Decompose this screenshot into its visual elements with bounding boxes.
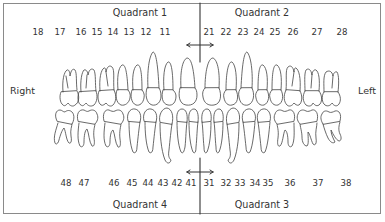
tooth-15 [116, 65, 130, 105]
tooth-22 [224, 62, 238, 105]
tooth-13 [146, 52, 161, 105]
tooth-42 [177, 109, 188, 153]
tooth-45 [127, 109, 140, 153]
tooth-25 [270, 65, 283, 105]
tooth-18 [60, 69, 79, 106]
tooth-14 [131, 65, 144, 105]
tooth-24 [256, 65, 269, 105]
tooth-32 [214, 109, 224, 153]
tooth-16 [98, 66, 116, 106]
tooth-12 [162, 62, 176, 105]
tooth-23 [239, 52, 254, 105]
teeth-illustration [0, 0, 385, 222]
tooth-27 [303, 69, 321, 106]
tooth-34 [242, 109, 255, 153]
tooth-37 [297, 110, 317, 146]
tooth-48 [54, 110, 74, 144]
tooth-33 [226, 108, 239, 163]
tooth-43 [159, 108, 172, 163]
tooth-21 [203, 58, 221, 105]
tooth-11 [179, 58, 197, 105]
tooth-38 [321, 111, 341, 143]
tooth-47 [77, 110, 97, 147]
tooth-31 [202, 109, 212, 153]
tooth-35 [257, 109, 270, 153]
tooth-46 [103, 110, 123, 147]
tooth-26 [284, 66, 302, 106]
tooth-44 [143, 109, 156, 153]
tooth-36 [274, 110, 294, 147]
tooth-17 [78, 69, 97, 106]
tooth-41 [189, 109, 199, 153]
tooth-28 [322, 71, 340, 106]
